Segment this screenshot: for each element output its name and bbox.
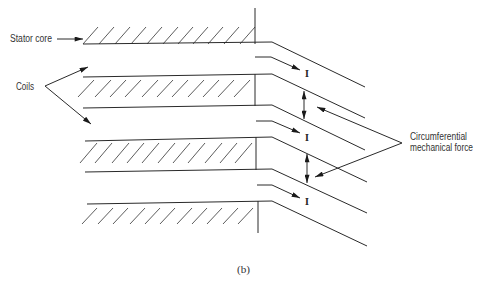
hatch-pattern [80, 143, 252, 163]
tooth-bottom-line [85, 169, 367, 213]
tooth-top-line [85, 137, 367, 182]
current-arrow [255, 57, 300, 70]
current-label-3: I [305, 196, 309, 207]
leader-arrow [45, 67, 88, 86]
force-label-line2: mechanical force [410, 142, 473, 153]
current-arrow [256, 121, 300, 133]
leader-arrow [315, 143, 402, 177]
force-callout: Circumferential mechanical force [315, 107, 473, 177]
tooth-top-line [87, 201, 367, 246]
diagram-canvas: I I I [0, 0, 482, 285]
leader-arrow [317, 107, 402, 143]
stator-tooth-4 [82, 201, 367, 246]
stator-coil-force-diagram: I I I [0, 0, 482, 285]
figure-caption: (b) [237, 265, 250, 276]
hatch-pattern [82, 208, 253, 224]
stator-core-callout: Stator core [10, 33, 83, 44]
hatch-pattern [83, 27, 255, 44]
hatch-pattern [78, 80, 250, 97]
stator-core-label: Stator core [10, 33, 52, 44]
stator-tooth-2 [78, 74, 365, 150]
tooth-bottom-line [83, 105, 365, 150]
force-label-line1: Circumferential [410, 131, 467, 142]
current-arrow [257, 185, 300, 198]
coil-conductor-1: I [255, 57, 309, 79]
current-label-1: I [305, 68, 309, 79]
current-label-2: I [305, 132, 309, 143]
leader-arrow [45, 86, 91, 124]
coil-conductor-2: I [256, 121, 309, 143]
coil-conductor-3: I [257, 185, 309, 207]
coils-label: Coils [16, 81, 34, 92]
